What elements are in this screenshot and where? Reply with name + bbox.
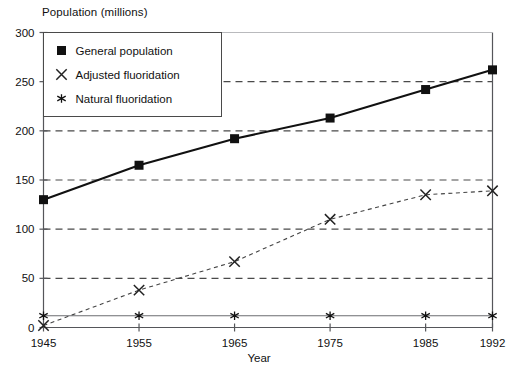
legend-item-label: Adjusted fluoridation	[76, 69, 180, 81]
legend-item-label: General population	[76, 45, 173, 57]
legend-item-label: Natural fluoridation	[76, 93, 173, 105]
chart-canvas: 050100150200250300 194519551965197519851…	[0, 0, 518, 379]
y-tick-label: 200	[15, 125, 34, 137]
legend-group: General populationAdjusted fluoridationN…	[44, 33, 222, 117]
x-tick-label: 1992	[480, 337, 506, 349]
data-point-square	[421, 85, 430, 94]
data-point-square	[488, 65, 497, 74]
data-point-square	[326, 114, 335, 123]
chart-figure: Population (millions) Year 0501001502002…	[0, 0, 518, 379]
y-tick-group: 050100150200250300	[15, 27, 47, 334]
x-tick-label: 1965	[222, 337, 248, 349]
data-point-square	[135, 161, 144, 170]
series-line	[44, 191, 493, 326]
y-tick-label: 50	[22, 272, 35, 284]
data-point-x	[325, 214, 335, 224]
x-tick-label: 1945	[31, 337, 57, 349]
x-tick-label: 1955	[126, 337, 152, 349]
x-tick-label: 1985	[413, 337, 439, 349]
data-point-square	[57, 46, 66, 55]
x-tick-label: 1975	[317, 337, 343, 349]
y-tick-label: 0	[28, 322, 34, 334]
y-tick-label: 300	[15, 27, 34, 39]
data-point-x	[229, 256, 239, 266]
data-point-square	[39, 195, 48, 204]
data-point-x	[134, 285, 144, 295]
y-tick-label: 100	[15, 223, 34, 235]
data-point-square	[230, 134, 239, 143]
y-tick-label: 250	[15, 76, 34, 88]
y-tick-label: 150	[15, 174, 34, 186]
